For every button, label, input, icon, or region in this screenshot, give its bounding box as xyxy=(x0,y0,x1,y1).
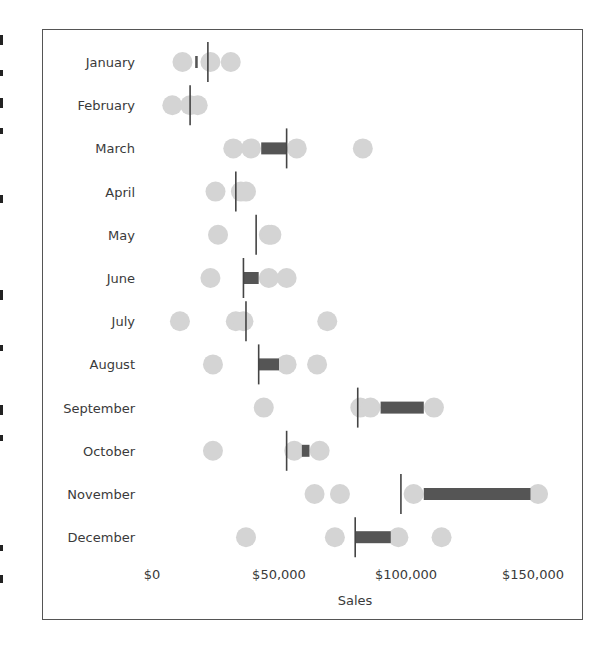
sale-dot xyxy=(206,182,226,202)
month-label: September xyxy=(63,401,136,416)
sale-dot xyxy=(203,354,223,374)
sale-dot xyxy=(233,311,253,331)
x-tick-label: $150,000 xyxy=(502,567,564,582)
sale-dot xyxy=(200,268,220,288)
sale-dot xyxy=(236,527,256,547)
sale-dot xyxy=(221,52,241,72)
dot-range-chart: JanuaryFebruaryMarchAprilMayJuneJulyAugu… xyxy=(0,0,611,650)
month-label: June xyxy=(106,271,135,286)
sale-dot xyxy=(208,225,228,245)
x-axis-title: Sales xyxy=(338,593,373,608)
sale-dot xyxy=(287,138,307,158)
x-tick-label: $50,000 xyxy=(252,567,306,582)
month-label: August xyxy=(90,357,136,372)
month-label: March xyxy=(95,141,135,156)
row-february: February xyxy=(77,85,207,125)
range-bar xyxy=(259,358,279,370)
x-axis: $0$50,000$100,000$150,000 xyxy=(144,567,564,582)
sale-dot xyxy=(307,354,327,374)
sale-dot xyxy=(236,182,256,202)
sale-dot xyxy=(277,268,297,288)
sale-dot xyxy=(162,95,182,115)
month-label: May xyxy=(108,228,135,243)
sale-dot xyxy=(360,398,380,418)
sale-dot xyxy=(388,527,408,547)
chart-rows: JanuaryFebruaryMarchAprilMayJuneJulyAugu… xyxy=(63,42,548,557)
sale-dot xyxy=(241,138,261,158)
sale-dot xyxy=(404,484,424,504)
sale-dot xyxy=(310,441,330,461)
row-may: May xyxy=(108,215,281,255)
row-september: September xyxy=(63,388,444,428)
month-label: November xyxy=(67,487,135,502)
sale-dot xyxy=(432,527,452,547)
row-march: March xyxy=(95,128,372,168)
sale-dot xyxy=(305,484,325,504)
row-august: August xyxy=(90,344,328,384)
range-bar xyxy=(381,402,424,414)
row-november: November xyxy=(67,474,548,514)
row-january: January xyxy=(85,42,241,82)
sale-dot xyxy=(353,138,373,158)
row-april: April xyxy=(105,172,256,212)
sale-dot xyxy=(203,441,223,461)
sale-dot xyxy=(330,484,350,504)
row-october: October xyxy=(83,431,330,471)
x-tick-label: $0 xyxy=(144,567,161,582)
sale-dot xyxy=(277,354,297,374)
range-bar xyxy=(355,531,391,543)
sale-dot xyxy=(200,52,220,72)
sale-dot xyxy=(325,527,345,547)
sale-dot xyxy=(254,398,274,418)
range-bar xyxy=(243,272,258,284)
month-label: July xyxy=(111,314,136,329)
month-label: February xyxy=(77,98,135,113)
month-label: April xyxy=(105,185,135,200)
sale-dot xyxy=(259,268,279,288)
range-bar xyxy=(302,445,310,457)
row-december: December xyxy=(68,517,452,557)
range-bar xyxy=(261,142,286,154)
sale-dot xyxy=(172,52,192,72)
month-label: October xyxy=(83,444,136,459)
sale-dot xyxy=(528,484,548,504)
sale-dot xyxy=(317,311,337,331)
row-june: June xyxy=(106,258,297,298)
sale-dot xyxy=(424,398,444,418)
sale-dot xyxy=(223,138,243,158)
sale-dot xyxy=(170,311,190,331)
row-july: July xyxy=(111,301,338,341)
range-bar xyxy=(424,488,531,500)
sale-dot xyxy=(261,225,281,245)
month-label: December xyxy=(68,530,136,545)
range-bar xyxy=(195,56,198,68)
x-tick-label: $100,000 xyxy=(375,567,437,582)
month-label: January xyxy=(85,55,136,70)
